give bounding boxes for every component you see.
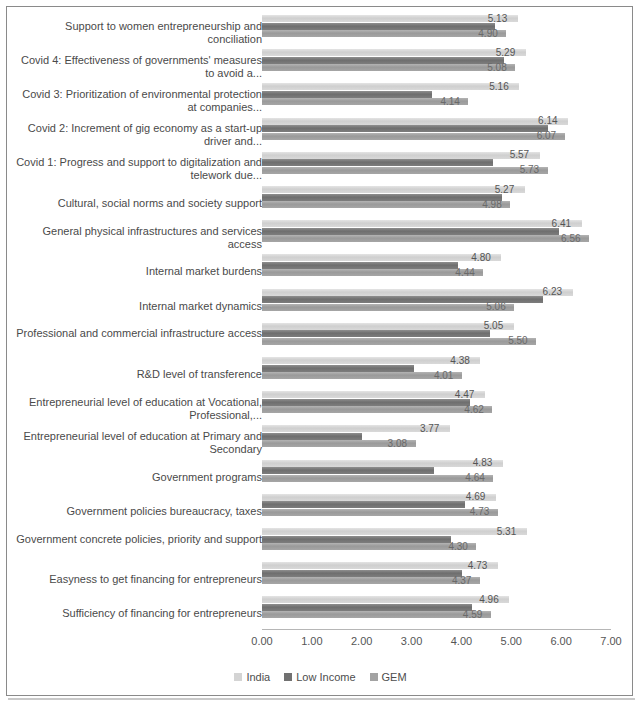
bar-low-income: [262, 570, 462, 577]
chart-category-row: R&D level of transference4.384.01: [7, 357, 634, 391]
category-axis-label: Professional and commercial infrastructu…: [14, 327, 262, 340]
bar-value-label: 4.73: [468, 561, 487, 571]
chart-category-row: Covid 2: Increment of gig economy as a s…: [7, 118, 634, 152]
bar-india: [262, 254, 501, 261]
bar-value-label: 5.57: [510, 150, 529, 160]
category-axis-label: Government policies bureaucracy, taxes: [14, 505, 262, 518]
bar-value-label: 4.90: [478, 29, 497, 39]
bar-value-label: 4.62: [464, 405, 483, 415]
bar-low-income: [262, 23, 495, 30]
bar-gem: [262, 611, 491, 618]
bar-india: [262, 596, 509, 603]
category-axis-label: Easyness to get financing for entreprene…: [14, 573, 262, 586]
bar-value-label: 4.80: [471, 253, 490, 263]
bar-gem: [262, 98, 468, 105]
legend-swatch-icon: [234, 673, 242, 681]
legend-swatch-icon: [284, 673, 292, 681]
chart-legend: IndiaLow IncomeGEM: [7, 671, 634, 683]
bar-gem: [262, 167, 548, 174]
chart-category-row: Cultural, social norms and society suppo…: [7, 186, 634, 220]
category-axis-label: Government programs: [14, 471, 262, 484]
bar-gem: [262, 338, 536, 345]
chart-category-row: Covid 1: Progress and support to digital…: [7, 152, 634, 186]
x-axis-tick-label: 5.00: [501, 635, 522, 647]
bar-low-income: [262, 604, 472, 611]
chart-category-row: General physical infrastructures and ser…: [7, 220, 634, 254]
bar-low-income: [262, 125, 548, 132]
bar-gem: [262, 133, 565, 140]
bar-low-income: [262, 467, 434, 474]
bar-india: [262, 220, 582, 227]
chart-category-row: Government policies bureaucracy, taxes4.…: [7, 494, 634, 528]
bar-india: [262, 460, 503, 467]
bar-india: [262, 15, 518, 22]
legend-item-low-income[interactable]: Low Income: [284, 671, 355, 683]
bar-value-label: 4.73: [470, 507, 489, 517]
bar-gem: [262, 64, 515, 71]
chart-category-row: Entrepreneurial level of education at Vo…: [7, 391, 634, 425]
bar-low-income: [262, 501, 465, 508]
chart-category-row: Covid 4: Effectiveness of governments' m…: [7, 49, 634, 83]
legend-swatch-icon: [370, 673, 378, 681]
bar-value-label: 4.38: [450, 356, 469, 366]
chart-category-row: Internal market dynamics6.235.06: [7, 289, 634, 323]
bar-india: [262, 152, 540, 159]
bar-low-income: [262, 365, 414, 372]
bar-low-income: [262, 330, 490, 337]
x-axis-tick-label: 6.00: [550, 635, 571, 647]
x-axis-tick-label: 2.00: [351, 635, 372, 647]
bar-low-income: [262, 57, 504, 64]
bar-value-label: 4.83: [473, 458, 492, 468]
chart-category-row: Easyness to get financing for entreprene…: [7, 562, 634, 596]
x-axis-tick-label: 0.00: [251, 635, 272, 647]
legend-item-india[interactable]: India: [234, 671, 270, 683]
category-axis-label: Support to women entrepreneurship and co…: [14, 20, 262, 46]
bar-india: [262, 562, 498, 569]
category-axis-label: Covid 2: Increment of gig economy as a s…: [14, 122, 262, 148]
bar-low-income: [262, 228, 559, 235]
bar-low-income: [262, 536, 451, 543]
legend-item-gem[interactable]: GEM: [370, 671, 407, 683]
category-axis-label: Cultural, social norms and society suppo…: [14, 197, 262, 210]
bar-india: [262, 83, 519, 90]
bar-gem: [262, 201, 510, 208]
bar-value-label: 4.64: [465, 473, 484, 483]
bar-value-label: 5.06: [486, 302, 505, 312]
chart-category-row: Covid 3: Prioritization of environmental…: [7, 83, 634, 117]
bar-value-label: 4.59: [463, 610, 482, 620]
bar-india: [262, 528, 527, 535]
bar-value-label: 5.08: [487, 63, 506, 73]
bar-gem: [262, 235, 589, 242]
bar-value-label: 4.44: [455, 268, 474, 278]
bar-value-label: 3.08: [388, 439, 407, 449]
bar-value-label: 5.16: [489, 82, 508, 92]
plot-area: Support to women entrepreneurship and co…: [7, 7, 634, 697]
bar-gem: [262, 543, 476, 550]
category-axis-label: Covid 3: Prioritization of environmental…: [14, 88, 262, 114]
bar-value-label: 4.96: [479, 595, 498, 605]
bar-value-label: 6.23: [543, 287, 562, 297]
legend-label: Low Income: [296, 671, 355, 683]
bar-low-income: [262, 159, 493, 166]
bar-low-income: [262, 399, 470, 406]
chart-category-row: Government concrete policies, priority a…: [7, 528, 634, 562]
bar-india: [262, 289, 573, 296]
bar-value-label: 5.31: [497, 527, 516, 537]
bar-gem: [262, 406, 492, 413]
category-axis-label: Internal market burdens: [14, 265, 262, 278]
bar-value-label: 6.07: [537, 131, 556, 141]
chart-category-row: Sufficiency of financing for entrepreneu…: [7, 596, 634, 630]
category-axis-label: Internal market dynamics: [14, 300, 262, 313]
category-axis-label: Entrepreneurial level of education at Pr…: [14, 430, 262, 456]
bar-low-income: [262, 194, 502, 201]
bar-gem: [262, 577, 480, 584]
bar-gem: [262, 304, 514, 311]
bar-low-income: [262, 262, 458, 269]
legend-label: India: [246, 671, 270, 683]
bar-value-label: 4.01: [434, 371, 453, 381]
chart-frame: Support to women entrepreneurship and co…: [6, 6, 633, 696]
bar-value-label: 6.56: [561, 234, 580, 244]
x-axis-tick-label: 4.00: [451, 635, 472, 647]
bar-value-label: 5.50: [508, 336, 527, 346]
bar-india: [262, 494, 496, 501]
